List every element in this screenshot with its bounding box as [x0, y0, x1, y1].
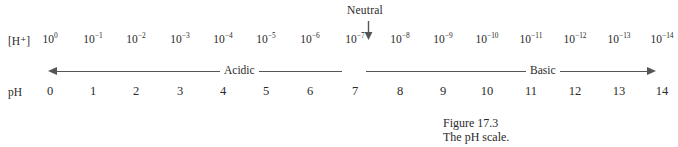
concentration-axis: [H⁺] 100 10−1 10−2 10−3 10−4 10−5 10−6 1… [0, 32, 664, 52]
acidic-label: Acidic [220, 62, 259, 78]
region-arrow-band: Acidic Basic [0, 64, 664, 80]
ph-axis: pH 0 1 2 3 4 5 6 7 8 9 10 11 12 13 14 [0, 84, 664, 104]
acidic-region-arrow: Acidic [48, 64, 342, 80]
acidic-rule [56, 71, 342, 72]
figure-caption-number: Figure 17.3 [443, 116, 509, 130]
basic-region-arrow: Basic [366, 64, 656, 80]
neutral-label: Neutral [330, 4, 400, 16]
figure-caption-text: The pH scale. [443, 130, 509, 144]
arrow-right-icon [647, 67, 656, 75]
figure-caption: Figure 17.3 The pH scale. [443, 116, 509, 144]
ph-tick: 14 [633, 84, 678, 99]
ph-axis-label: pH [8, 86, 22, 98]
basic-rule [366, 71, 648, 72]
concentration-tick: 10−14 [633, 32, 678, 47]
basic-label: Basic [526, 62, 560, 78]
